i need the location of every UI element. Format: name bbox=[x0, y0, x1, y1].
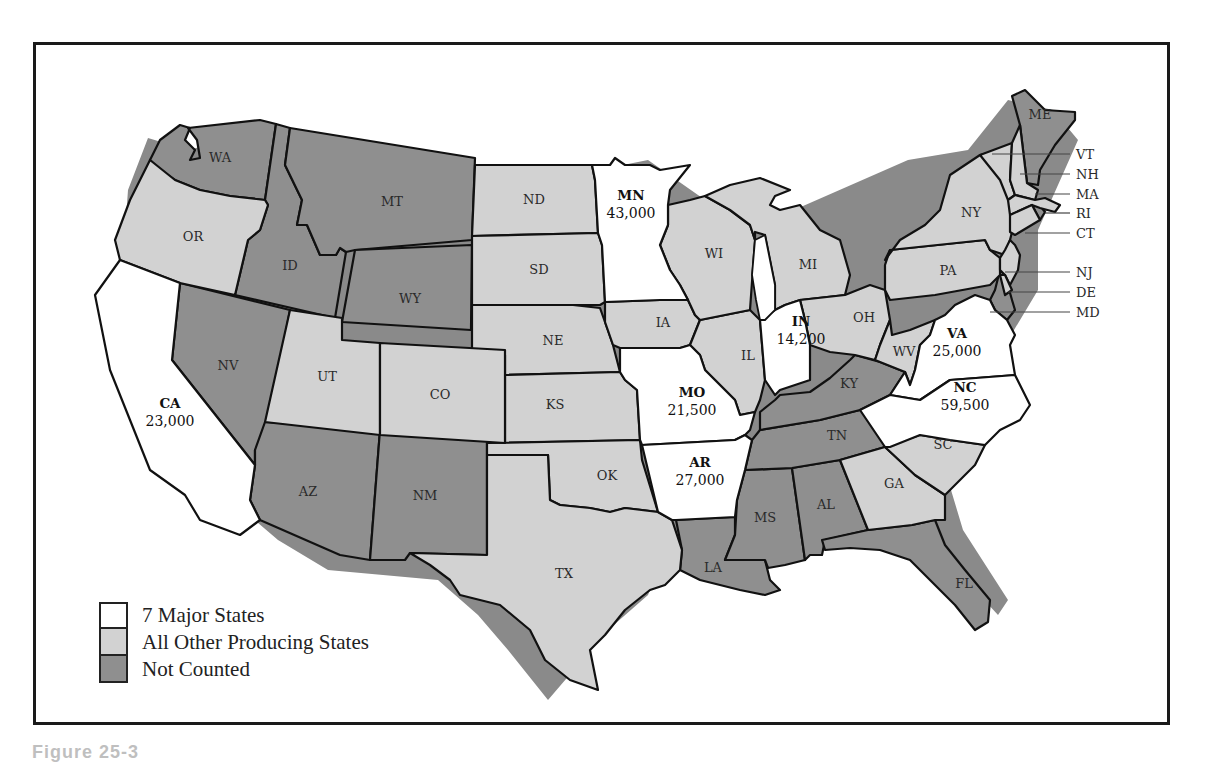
callout-nj: NJ bbox=[1076, 265, 1093, 280]
callout-nh: NH bbox=[1076, 167, 1099, 182]
legend-label-other: All Other Producing States bbox=[142, 630, 369, 655]
label-pa: PA bbox=[940, 263, 958, 278]
state-IA[interactable] bbox=[605, 300, 700, 348]
label-mt: MT bbox=[381, 194, 403, 209]
label-ut: UT bbox=[317, 369, 337, 384]
label-wi: WI bbox=[705, 246, 724, 261]
callout-ct: CT bbox=[1076, 226, 1095, 241]
label-oh: OH bbox=[853, 310, 875, 325]
label-sc: SC bbox=[934, 437, 953, 452]
label-ne: NE bbox=[543, 333, 564, 348]
value-mo: 21,500 bbox=[668, 402, 717, 418]
legend-swatch-major bbox=[99, 602, 128, 629]
label-ar: AR bbox=[688, 454, 711, 470]
legend-swatch-other bbox=[99, 629, 128, 656]
callout-vt: VT bbox=[1075, 147, 1094, 162]
legend-item-other: All Other Producing States bbox=[99, 629, 369, 656]
label-co: CO bbox=[430, 387, 451, 402]
label-ca: CA bbox=[159, 395, 181, 411]
label-sd: SD bbox=[529, 262, 548, 277]
label-mn: MN bbox=[617, 187, 644, 203]
legend-label-not-counted: Not Counted bbox=[142, 657, 250, 682]
label-mo: MO bbox=[679, 384, 706, 400]
label-nm: NM bbox=[413, 488, 438, 503]
callout-labels: VT NH MA RI CT NJ DE MD bbox=[1075, 147, 1100, 320]
label-ny: NY bbox=[961, 205, 981, 220]
label-wv: WV bbox=[893, 344, 916, 359]
label-ks: KS bbox=[546, 397, 565, 412]
label-or: OR bbox=[183, 229, 205, 244]
figure-caption: Figure 25-3 bbox=[32, 742, 139, 762]
label-ga: GA bbox=[884, 476, 904, 491]
label-nd: ND bbox=[523, 192, 545, 207]
map-legend: 7 Major States All Other Producing State… bbox=[99, 602, 369, 683]
label-me: ME bbox=[1029, 107, 1052, 122]
label-mi: MI bbox=[799, 257, 817, 272]
value-va: 25,000 bbox=[933, 343, 982, 359]
label-ok: OK bbox=[597, 468, 618, 483]
label-wa: WA bbox=[209, 150, 232, 165]
value-mn: 43,000 bbox=[607, 205, 656, 221]
legend-label-major: 7 Major States bbox=[142, 603, 264, 628]
label-nv: NV bbox=[218, 358, 239, 373]
legend-swatch-not-counted bbox=[99, 656, 128, 683]
callout-de: DE bbox=[1076, 285, 1096, 300]
label-in: IN bbox=[792, 313, 811, 329]
value-nc: 59,500 bbox=[941, 397, 990, 413]
value-in: 14,200 bbox=[777, 331, 826, 347]
label-ky: KY bbox=[840, 376, 858, 391]
callout-md: MD bbox=[1076, 305, 1100, 320]
callout-ma: MA bbox=[1076, 187, 1099, 202]
label-id: ID bbox=[282, 258, 298, 273]
label-wy: WY bbox=[399, 291, 421, 306]
label-il: IL bbox=[741, 348, 755, 363]
value-ar: 27,000 bbox=[676, 472, 725, 488]
label-tn: TN bbox=[827, 428, 847, 443]
legend-item-major: 7 Major States bbox=[99, 602, 369, 629]
legend-item-not-counted: Not Counted bbox=[99, 656, 369, 683]
label-tx: TX bbox=[555, 566, 574, 581]
label-az: AZ bbox=[298, 484, 317, 499]
label-la: LA bbox=[704, 560, 723, 575]
state-KS[interactable] bbox=[505, 372, 640, 443]
label-fl: FL bbox=[955, 576, 973, 591]
label-va: VA bbox=[946, 325, 967, 341]
label-ia: IA bbox=[656, 315, 671, 330]
label-al: AL bbox=[816, 497, 835, 512]
state-WY[interactable] bbox=[342, 245, 472, 330]
label-nc: NC bbox=[953, 379, 976, 395]
value-ca: 23,000 bbox=[146, 413, 195, 429]
callout-ri: RI bbox=[1076, 206, 1091, 221]
label-ms: MS bbox=[754, 510, 776, 525]
state-MT[interactable] bbox=[285, 128, 475, 255]
